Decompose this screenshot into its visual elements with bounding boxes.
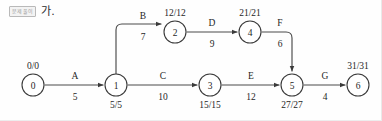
edge-F-label: F <box>277 18 282 28</box>
edge-E-label: E <box>248 71 254 81</box>
edge-A-label: A <box>72 71 79 81</box>
edge-F-line <box>262 32 292 71</box>
node-1-value: 5/5 <box>110 100 122 110</box>
edge-G-label: G <box>322 71 329 81</box>
edge-A: A 5 <box>45 71 103 102</box>
edge-C: C 10 <box>128 71 197 102</box>
edge-G-weight: 4 <box>323 92 328 102</box>
node-5: 5 27/27 <box>281 74 303 110</box>
node-5-value: 27/27 <box>281 100 303 110</box>
edge-C-weight: 10 <box>158 92 168 102</box>
node-2-value: 12/12 <box>164 8 186 18</box>
edge-F-weight: 6 <box>278 39 283 49</box>
node-4-id: 4 <box>248 28 253 38</box>
diagram-page: 문제풀이 가. A 5 B 7 C 10 D <box>0 0 382 121</box>
node-3-value: 15/15 <box>199 100 221 110</box>
edge-C-label: C <box>160 71 166 81</box>
node-3: 3 15/15 <box>199 74 221 110</box>
edge-E-weight: 12 <box>246 92 256 102</box>
edge-G: G 4 <box>304 71 345 102</box>
node-1-id: 1 <box>114 81 119 91</box>
edge-B-label: B <box>140 11 146 21</box>
network-diagram: A 5 B 7 C 10 D 9 E 12 F <box>0 0 382 121</box>
edge-B-line <box>116 24 161 74</box>
edge-D: D 9 <box>187 18 237 49</box>
node-4: 4 21/21 <box>239 8 261 43</box>
edge-B-weight: 7 <box>141 32 146 42</box>
edge-A-weight: 5 <box>73 92 78 102</box>
node-1: 1 5/5 <box>105 74 127 110</box>
edge-B: B 7 <box>116 11 161 74</box>
node-6: 6 31/31 <box>347 61 369 96</box>
node-0: 0 0/0 <box>22 61 44 96</box>
edge-D-weight: 9 <box>210 39 215 49</box>
node-6-value: 31/31 <box>347 61 369 71</box>
edge-F: F 6 <box>262 18 292 71</box>
node-4-value: 21/21 <box>239 8 261 18</box>
node-0-id: 0 <box>31 81 36 91</box>
edge-D-label: D <box>209 18 216 28</box>
node-3-id: 3 <box>208 81 213 91</box>
node-0-value: 0/0 <box>27 61 39 71</box>
node-5-id: 5 <box>290 81 295 91</box>
node-2: 2 12/12 <box>164 8 186 43</box>
node-6-id: 6 <box>356 81 361 91</box>
edge-E: E 12 <box>222 71 279 102</box>
node-2-id: 2 <box>173 28 178 38</box>
